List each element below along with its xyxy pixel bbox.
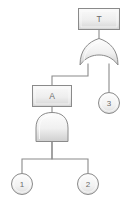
top-event-label: T <box>96 14 101 24</box>
and-gate-shape[interactable] <box>36 113 68 142</box>
fault-tree-diagram: T A 3 1 <box>0 0 133 202</box>
edge-or-gate-to-event-a <box>52 64 88 85</box>
basic-event-3-node[interactable]: 3 <box>99 93 120 114</box>
top-event-node[interactable]: T <box>79 9 120 30</box>
basic-event-1-node[interactable]: 1 <box>12 174 33 195</box>
edge-and-gate-to-basic-2 <box>52 142 88 173</box>
edge-and-gate-to-basic-1 <box>22 142 52 173</box>
basic-event-1-label: 1 <box>20 180 25 189</box>
or-gate-node[interactable] <box>80 39 118 66</box>
intermediate-event-a-node[interactable]: A <box>33 86 72 107</box>
intermediate-event-a-label: A <box>49 91 55 101</box>
basic-event-2-label: 2 <box>86 180 91 189</box>
fault-tree-canvas: T A 3 1 <box>0 0 133 202</box>
and-gate-node[interactable] <box>36 113 68 142</box>
basic-event-2-node[interactable]: 2 <box>78 174 99 195</box>
basic-event-3-label: 3 <box>107 99 112 108</box>
